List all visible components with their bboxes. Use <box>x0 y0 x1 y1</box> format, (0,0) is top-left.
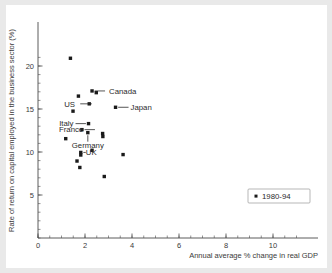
legend: 1980-94 <box>248 189 310 203</box>
x-tick-label: 10 <box>269 241 277 250</box>
data-point <box>75 159 78 162</box>
point-label-japan: Japan <box>131 103 152 112</box>
y-axis-major-ticks <box>38 66 43 195</box>
chart-page: 5101520 Rate of return on capital employ… <box>0 0 332 273</box>
y-axis-tick-labels: 5101520 <box>26 62 34 200</box>
data-point-italy <box>87 122 90 125</box>
point-label-canada: Canada <box>109 87 137 96</box>
data-point-canada <box>90 89 93 92</box>
point-label-us: US <box>64 100 75 109</box>
y-axis: 5101520 Rate of return on capital employ… <box>7 22 43 238</box>
x-tick-label: 2 <box>83 241 87 250</box>
data-point <box>71 109 74 112</box>
data-point <box>64 137 67 140</box>
data-point <box>95 91 98 94</box>
data-point <box>78 166 81 169</box>
data-point <box>103 175 106 178</box>
scatter-plot: 5101520 Rate of return on capital employ… <box>0 0 332 273</box>
x-axis: 0246810 Annual average % change in real … <box>36 234 318 261</box>
data-point-germany <box>86 131 89 134</box>
legend-marker <box>255 195 258 198</box>
y-tick-label: 20 <box>26 62 34 71</box>
y-tick-label: 15 <box>26 105 34 114</box>
data-point <box>79 153 82 156</box>
point-label-group: CanadaUSJapanItalyFranceGermanyUK <box>59 87 152 157</box>
point-label-uk: UK <box>86 148 98 157</box>
data-point <box>121 153 124 156</box>
x-axis-title: Annual average % change in real GDP <box>189 251 318 260</box>
legend-label: 1980-94 <box>262 192 291 201</box>
data-point <box>101 135 104 138</box>
data-point <box>101 132 104 135</box>
data-point <box>77 94 80 97</box>
point-label-france: France <box>59 125 83 134</box>
y-tick-label: 5 <box>30 191 34 200</box>
x-tick-label: 6 <box>177 241 181 250</box>
x-tick-label: 0 <box>36 241 40 250</box>
data-point-group <box>64 57 125 179</box>
x-axis-tick-labels: 0246810 <box>36 241 277 250</box>
data-point <box>69 57 72 60</box>
data-point-japan <box>114 106 117 109</box>
y-tick-label: 10 <box>26 148 34 157</box>
x-tick-label: 4 <box>130 241 134 250</box>
y-axis-title: Rate of return on capital employed in th… <box>7 28 16 232</box>
x-tick-label: 8 <box>224 241 228 250</box>
